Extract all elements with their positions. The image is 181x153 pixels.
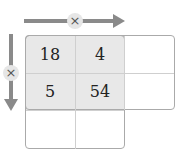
multiply-icon-horizontal: × [67, 13, 83, 29]
cell-r1-c0: 5 [25, 73, 75, 110]
cell-r1-c1: 54 [75, 73, 125, 110]
grid-line-row-2 [26, 110, 124, 111]
cell-r0-c0: 18 [25, 36, 75, 73]
multiply-icon-vertical: × [3, 65, 19, 81]
vertical-arrow-head-icon [4, 99, 18, 111]
cell-r0-c1: 4 [75, 36, 125, 73]
horizontal-arrow-head-icon [113, 14, 125, 28]
